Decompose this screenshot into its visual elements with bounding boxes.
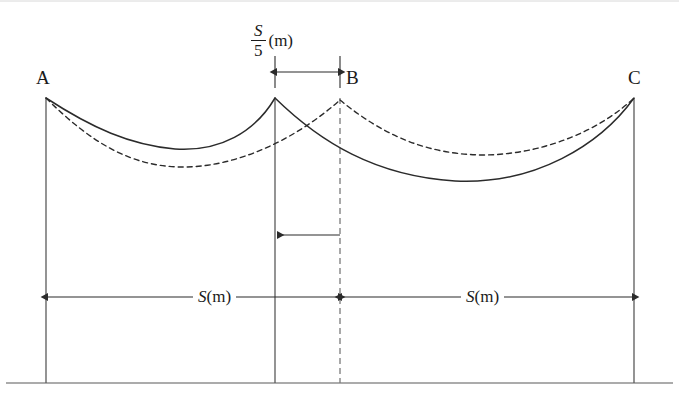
right-span-label: S(m) (461, 288, 504, 305)
diagram-canvas (0, 0, 679, 409)
offset-numerator: S (251, 22, 266, 40)
conductor-dashed-right (340, 98, 634, 155)
left-span-unit: (m) (207, 287, 232, 306)
conductor-solid-right (275, 98, 634, 181)
label-support-b: B (346, 68, 359, 87)
offset-dimension-label: S 5 (m) (251, 22, 293, 59)
right-span-unit: (m) (475, 287, 500, 306)
label-support-c: C (628, 68, 641, 87)
span-diagram-figure: A B C S 5 (m) S(m) S(m) (0, 0, 679, 409)
left-span-variable: S (198, 287, 207, 306)
offset-unit: (m) (265, 32, 293, 49)
conductor-solid-left (46, 98, 275, 149)
right-span-variable: S (466, 287, 475, 306)
conductor-dashed-left (46, 98, 340, 167)
label-support-a: A (36, 68, 50, 87)
offset-denominator: 5 (251, 41, 266, 59)
offset-fraction: S 5 (251, 22, 266, 59)
left-span-label: S(m) (193, 288, 236, 305)
